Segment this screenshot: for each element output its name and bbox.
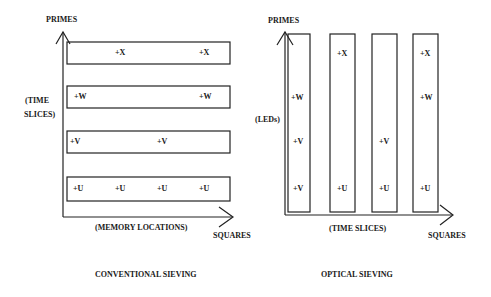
- mark: +U: [420, 185, 430, 193]
- right-x-axis-label: SQUARES: [428, 232, 466, 240]
- mark: +U: [199, 185, 209, 193]
- mark: +X: [337, 50, 347, 58]
- mark: +W: [420, 94, 433, 102]
- right-y-axis-label: PRIMES: [268, 17, 299, 25]
- mark: +X: [115, 49, 125, 57]
- mark: +V: [293, 185, 303, 193]
- left-y-axis-sublabel-2: SLICES): [24, 111, 55, 119]
- mark: +U: [337, 185, 347, 193]
- mark: +V: [293, 138, 303, 146]
- left-y-axis-label: PRIMES: [46, 16, 77, 24]
- mark: +U: [73, 185, 83, 193]
- mark: +W: [199, 93, 212, 101]
- left-caption: CONVENTIONAL SIEVING: [95, 271, 197, 279]
- mark: +X: [199, 49, 209, 57]
- mark: +V: [379, 138, 389, 146]
- right-caption: OPTICAL SIEVING: [321, 271, 393, 279]
- mark: +U: [379, 185, 389, 193]
- left-y-axis-sublabel-1: (TIME: [25, 97, 49, 105]
- mark: +X: [420, 50, 430, 58]
- right-y-axis-sublabel: (LEDs): [255, 116, 280, 124]
- row-box-v: [67, 131, 230, 153]
- mark: +U: [157, 185, 167, 193]
- left-x-axis-label: SQUARES: [213, 232, 251, 240]
- left-x-axis-sublabel: (MEMORY LOCATIONS): [95, 224, 187, 232]
- diagram-lines: [0, 0, 491, 297]
- right-x-axis-sublabel: (TIME SLICES): [329, 225, 386, 233]
- mark: +W: [291, 94, 304, 102]
- mark: +U: [115, 185, 125, 193]
- mark: +W: [74, 93, 87, 101]
- mark: +V: [157, 138, 167, 146]
- mark: +V: [70, 138, 80, 146]
